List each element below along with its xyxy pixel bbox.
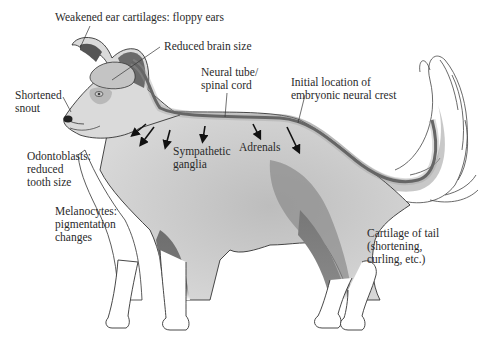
label-text: Initial location of bbox=[291, 76, 396, 89]
label-melanocytes: Melanocytes: pigmentation changes bbox=[55, 205, 117, 244]
label-text: (shortening, bbox=[367, 240, 439, 253]
label-floppy-ears: Weakened ear cartilages: floppy ears bbox=[55, 11, 224, 24]
label-text: snout bbox=[15, 102, 62, 115]
label-text: Adrenals bbox=[239, 141, 281, 153]
label-adrenals: Adrenals bbox=[239, 141, 281, 154]
label-text: curling, etc.) bbox=[367, 253, 439, 266]
label-text: Weakened ear cartilages: floppy ears bbox=[55, 11, 224, 23]
label-neural-crest: Initial location of embryonic neural cre… bbox=[291, 76, 396, 102]
label-sympathetic-ganglia: Sympathetic ganglia bbox=[173, 145, 231, 171]
label-odontoblasts: Odontoblasts: reduced tooth size bbox=[27, 150, 91, 189]
label-text: Neural tube/ bbox=[201, 66, 258, 79]
label-tail-cartilage: Cartilage of tail (shortening, curling, … bbox=[367, 227, 439, 266]
label-text: tooth size bbox=[27, 176, 91, 189]
label-shortened-snout: Shortened snout bbox=[15, 89, 62, 115]
label-neural-tube: Neural tube/ spinal cord bbox=[201, 66, 258, 92]
label-text: Shortened bbox=[15, 89, 62, 102]
label-text: Sympathetic bbox=[173, 145, 231, 158]
label-text: Cartilage of tail bbox=[367, 227, 439, 240]
label-text: changes bbox=[55, 231, 117, 244]
label-text: ganglia bbox=[173, 158, 231, 171]
label-text: Melanocytes: bbox=[55, 205, 117, 218]
label-text: Odontoblasts: bbox=[27, 150, 91, 163]
neural-crest-dog-diagram: Weakened ear cartilages: floppy ears Red… bbox=[0, 0, 486, 342]
label-text: reduced bbox=[27, 163, 91, 176]
label-text: Reduced brain size bbox=[164, 40, 252, 52]
label-text: embryonic neural crest bbox=[291, 89, 396, 102]
label-text: spinal cord bbox=[201, 79, 258, 92]
label-reduced-brain: Reduced brain size bbox=[164, 40, 252, 53]
label-text: pigmentation bbox=[55, 218, 117, 231]
